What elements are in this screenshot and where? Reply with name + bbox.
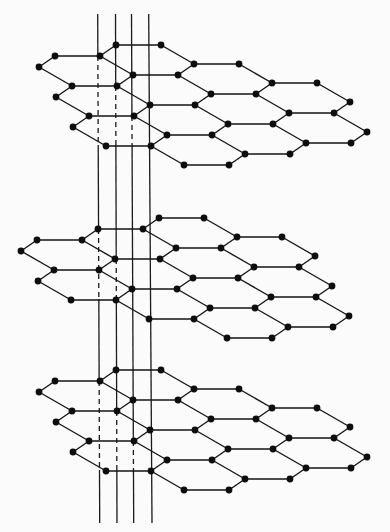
atom-node xyxy=(268,294,275,301)
atom-node xyxy=(287,476,294,483)
atom-node xyxy=(226,487,233,494)
atom-node xyxy=(35,278,42,285)
atom-node xyxy=(253,416,260,423)
atom-node xyxy=(207,305,214,312)
atom-node xyxy=(286,435,293,442)
atom-node xyxy=(236,386,243,393)
atom-node xyxy=(51,267,58,274)
atom-node xyxy=(225,446,232,453)
atom-node xyxy=(34,237,41,244)
atom-node xyxy=(270,446,277,453)
bond-line xyxy=(21,251,54,270)
bond-line xyxy=(299,267,332,286)
bond-line xyxy=(117,86,150,105)
bond-line xyxy=(239,64,272,83)
atom-node xyxy=(130,72,137,79)
bond-line xyxy=(273,449,306,468)
atom-node xyxy=(157,256,164,263)
atom-node xyxy=(131,438,138,445)
atom-node xyxy=(364,129,371,136)
atom-node xyxy=(192,102,199,109)
bond-line xyxy=(143,229,176,248)
atom-node xyxy=(69,408,76,415)
atom-node xyxy=(303,140,310,147)
atom-node xyxy=(97,53,104,60)
bond-line xyxy=(100,56,133,75)
atom-node xyxy=(164,457,171,464)
atom-node xyxy=(303,465,310,472)
bond-line xyxy=(212,460,245,479)
bond-line xyxy=(161,370,194,389)
atom-node xyxy=(252,305,259,312)
bond-line xyxy=(134,441,167,460)
atom-node xyxy=(181,162,188,169)
atom-node xyxy=(175,397,182,404)
atom-node xyxy=(208,416,215,423)
bond-line xyxy=(38,281,71,300)
bond-line xyxy=(273,124,306,143)
atom-node xyxy=(53,94,60,101)
bond-line xyxy=(212,135,245,154)
atom-node xyxy=(147,102,154,109)
atom-node xyxy=(103,468,110,475)
bond-line xyxy=(238,278,271,297)
atom-node xyxy=(164,132,171,139)
atom-node xyxy=(148,143,155,150)
atom-node xyxy=(209,132,216,139)
atom-node xyxy=(181,487,188,494)
atom-node xyxy=(113,42,120,49)
atom-node xyxy=(79,237,86,244)
bond-line xyxy=(134,116,167,135)
atom-node xyxy=(147,427,154,434)
atom-node xyxy=(114,408,121,415)
bond-line xyxy=(39,67,72,86)
atom-node xyxy=(253,91,260,98)
top-sheet xyxy=(36,42,371,169)
atom-node xyxy=(191,386,198,393)
bond-line xyxy=(334,113,367,132)
atom-node xyxy=(156,215,163,222)
bond-line xyxy=(195,105,228,124)
atom-node xyxy=(348,465,355,472)
atom-node xyxy=(208,91,215,98)
bond-line xyxy=(282,237,315,256)
atom-node xyxy=(114,83,121,90)
bond-line xyxy=(177,289,210,308)
atom-node xyxy=(285,324,292,331)
atom-node xyxy=(225,121,232,128)
atom-node xyxy=(140,226,147,233)
bond-line xyxy=(56,97,89,116)
atom-node xyxy=(234,234,241,241)
atom-node xyxy=(242,151,249,158)
atom-node xyxy=(52,53,59,60)
atom-node xyxy=(68,297,75,304)
atom-node xyxy=(314,405,321,412)
bond-line xyxy=(195,430,228,449)
atom-node xyxy=(52,378,59,385)
atom-node xyxy=(191,61,198,68)
atom-node xyxy=(173,245,180,252)
bond-line xyxy=(317,83,350,102)
atom-node xyxy=(131,113,138,120)
atom-node xyxy=(270,121,277,128)
atom-node xyxy=(113,367,120,374)
bond-line xyxy=(204,218,237,237)
atom-node xyxy=(269,335,276,342)
atom-node xyxy=(312,253,319,260)
bond-line xyxy=(194,319,227,338)
atom-node xyxy=(347,99,354,106)
atom-node xyxy=(331,110,338,117)
atom-node xyxy=(86,438,93,445)
hexagonal-sheets xyxy=(18,42,371,494)
atom-node xyxy=(348,140,355,147)
atom-node xyxy=(192,427,199,434)
atom-node xyxy=(190,275,197,282)
bottom-sheet xyxy=(36,367,371,494)
atom-node xyxy=(314,80,321,87)
bond-line xyxy=(73,452,106,471)
atom-node xyxy=(18,248,25,255)
atom-node xyxy=(269,80,276,87)
atom-node xyxy=(226,162,233,169)
atom-node xyxy=(236,61,243,68)
atom-node xyxy=(331,435,338,442)
